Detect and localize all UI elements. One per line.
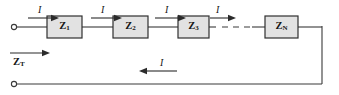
total-impedance-label: ZT (13, 57, 25, 68)
terminal-top-input (11, 24, 16, 29)
impedance-label-zn: ZN (265, 21, 298, 32)
current-label-input: I (38, 5, 41, 15)
total-impedance-symbol: Z (13, 56, 20, 67)
total-impedance-subscript: T (20, 60, 25, 68)
impedance-label-z1: Z1 (47, 21, 82, 32)
current-label-return: I (160, 58, 163, 68)
impedance-subscript-zn: N (282, 24, 287, 32)
impedance-label-z2: Z2 (113, 21, 148, 32)
current-label-z1-z2: I (101, 5, 104, 15)
impedance-subscript-z3: 3 (195, 24, 199, 32)
current-label-z3-zn: I (216, 5, 219, 15)
impedance-label-z3: Z3 (178, 21, 209, 32)
current-arrow-return (139, 68, 177, 74)
impedance-subscript-z1: 1 (66, 24, 70, 32)
terminal-bottom-input (11, 81, 16, 86)
current-label-z2-z3: I (165, 5, 168, 15)
series-impedance-diagram: Z1 Z2 Z3 ZN I I I I I ZT (0, 0, 339, 95)
impedance-subscript-z2: 2 (132, 24, 136, 32)
circuit-schematic-canvas (0, 0, 339, 95)
current-arrow-z3-zn (210, 15, 236, 21)
